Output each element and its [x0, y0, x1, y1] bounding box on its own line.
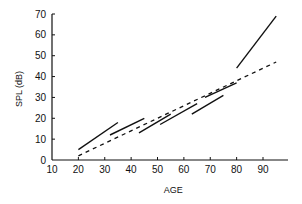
line-overall-fit [78, 62, 276, 156]
x-tick-label: 90 [257, 164, 269, 175]
line-segment-1 [78, 123, 118, 150]
x-tick-label: 40 [126, 164, 138, 175]
x-tick-label: 60 [178, 164, 190, 175]
x-tick-label: 10 [46, 164, 58, 175]
y-tick-label: 40 [35, 71, 47, 82]
x-axis-title: AGE [164, 185, 183, 195]
axes [52, 14, 288, 160]
y-tick-label: 10 [35, 134, 47, 145]
y-tick-label: 20 [35, 113, 47, 124]
y-tick-label: 50 [35, 50, 47, 61]
x-tick-label: 70 [205, 164, 217, 175]
chart: 010203040506070 102030405060708090 SPL (… [0, 0, 302, 204]
x-tick-label: 80 [231, 164, 243, 175]
line-segment-7 [237, 16, 277, 68]
x-tick-label: 50 [152, 164, 164, 175]
y-axis-title: SPL (dB) [14, 71, 24, 107]
x-tick-label: 30 [99, 164, 111, 175]
y-tick-label: 30 [35, 92, 47, 103]
line-segment-6 [205, 83, 237, 98]
series-group [78, 16, 276, 156]
x-tick-label: 20 [73, 164, 85, 175]
y-tick-label: 70 [35, 9, 47, 20]
line-segment-3 [139, 114, 171, 133]
y-tick-label: 60 [35, 29, 47, 40]
